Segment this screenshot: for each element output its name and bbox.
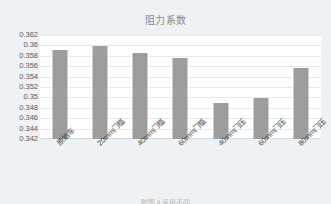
y-axis-tick-label: 0.346 [19, 114, 38, 122]
y-axis-tick-label: 0.36 [23, 41, 38, 49]
y-axis-tick-label: 0.344 [19, 125, 38, 133]
y-axis-tick-label: 0.348 [19, 104, 38, 112]
y-axis-tick-label: 0.356 [19, 62, 38, 70]
bar[interactable] [53, 50, 68, 139]
bar[interactable] [133, 53, 148, 139]
bar[interactable] [173, 58, 188, 139]
chart-title: 阻力系数 [0, 12, 331, 27]
y-axis-tick-label: 0.358 [19, 52, 38, 60]
y-axis-tick-label: 0.35 [23, 93, 38, 101]
chart-container: 阻力系数 0.3620.360.3580.3560.3540.3520.350.… [0, 0, 331, 204]
bottom-caption: 附图 4 采用不同 [0, 198, 331, 204]
y-axis-tick-label: 0.342 [19, 135, 38, 143]
y-axis: 0.3620.360.3580.3560.3540.3520.350.3480.… [2, 35, 38, 139]
y-axis-tick-label: 0.354 [19, 73, 38, 81]
y-axis-tick-label: 0.352 [19, 83, 38, 91]
x-axis: 原始车20mm门槛40mm门槛60mm门槛40mm门压60mm门压80mm门压 [40, 140, 321, 188]
y-axis-tick-label: 0.362 [19, 31, 38, 39]
bar-slot [40, 35, 80, 139]
bar[interactable] [93, 46, 108, 139]
